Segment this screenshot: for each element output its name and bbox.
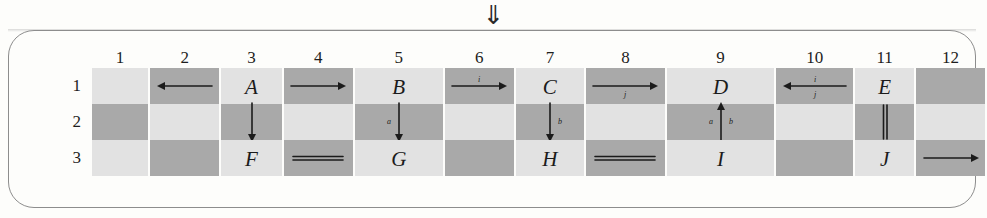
cell-letter: B xyxy=(392,77,405,98)
grid-cell-c6-r1: i xyxy=(445,68,514,104)
grid-body: 1ABiCjDijE2abab3FGHIJ xyxy=(64,68,985,176)
grid-cell-c5-r1: B xyxy=(355,68,443,104)
svg-text:i: i xyxy=(814,75,816,84)
svg-text:b: b xyxy=(729,117,733,126)
column-header-11: 11 xyxy=(855,46,914,68)
arrow-right-icon xyxy=(284,68,353,104)
arrow-right-icon: i xyxy=(445,68,514,104)
arrow-down-icon: a xyxy=(355,104,443,140)
cell-letter: J xyxy=(880,149,889,170)
grid-cell-c4-r1 xyxy=(284,68,353,104)
column-header-6: 6 xyxy=(445,46,514,68)
grid-cell-c8-r3 xyxy=(586,140,664,176)
double-line-horizontal-icon xyxy=(586,140,664,176)
cell-letter: C xyxy=(543,77,557,98)
grid-cell-c11-r3: J xyxy=(855,140,914,176)
svg-text:a: a xyxy=(709,117,713,126)
row-header-1: 1 xyxy=(64,68,90,104)
grid-cell-c12-r3 xyxy=(916,140,985,176)
grid-row-2: 2abab xyxy=(64,104,985,140)
grid-cell-c9-r3: I xyxy=(667,140,775,176)
grid-cell-c9-r2: ab xyxy=(667,104,775,140)
svg-text:j: j xyxy=(623,90,627,99)
column-header-2: 2 xyxy=(150,46,219,68)
grid-cell-c11-r1: E xyxy=(855,68,914,104)
grid-row-1: 1ABiCjDijE xyxy=(64,68,985,104)
grid-cell-c11-r2 xyxy=(855,104,914,140)
arrow-left-icon xyxy=(150,68,219,104)
grid-cell-c7-r3: H xyxy=(516,140,585,176)
grid-row-3: 3FGHIJ xyxy=(64,140,985,176)
grid-cell-c3-r1: A xyxy=(221,68,282,104)
grid-cell-c10-r1: ij xyxy=(776,68,853,104)
grid-cell-c7-r2: b xyxy=(516,104,585,140)
column-header-3: 3 xyxy=(221,46,282,68)
grid-cell-c3-r3: F xyxy=(221,140,282,176)
grid-cell-c10-r2 xyxy=(776,104,853,140)
grid-cell-c12-r1 xyxy=(916,68,985,104)
arrow-up-icon: ab xyxy=(667,104,775,140)
grid-corner xyxy=(64,46,90,68)
column-header-5: 5 xyxy=(355,46,443,68)
grid-cell-c8-r2 xyxy=(586,104,664,140)
arrow-right-icon xyxy=(916,140,985,176)
cell-letter: I xyxy=(717,149,724,170)
svg-text:b: b xyxy=(558,117,562,126)
grid-cell-c5-r2: a xyxy=(355,104,443,140)
grid-cell-c10-r3 xyxy=(776,140,853,176)
cell-letter: A xyxy=(245,77,258,98)
figure-root: ⇓ 123456789101112 1ABiCjDijE2abab3FGHIJ xyxy=(0,0,987,218)
cell-letter: G xyxy=(391,149,406,170)
column-header-8: 8 xyxy=(586,46,664,68)
arrow-down-icon: b xyxy=(516,104,585,140)
grid-cell-c2-r3 xyxy=(150,140,219,176)
grid-cell-c4-r2 xyxy=(284,104,353,140)
arrow-left-icon: ij xyxy=(776,68,853,104)
grid-cell-c1-r3 xyxy=(92,140,149,176)
row-header-2: 2 xyxy=(64,104,90,140)
double-down-arrow-icon: ⇓ xyxy=(0,0,987,32)
double-line-horizontal-icon xyxy=(284,140,353,176)
row-header-3: 3 xyxy=(64,140,90,176)
arrow-down-icon xyxy=(221,104,282,140)
grid-cell-c3-r2 xyxy=(221,104,282,140)
column-header-1: 1 xyxy=(92,46,149,68)
grid-cell-c2-r1 xyxy=(150,68,219,104)
column-header-10: 10 xyxy=(776,46,853,68)
column-header-7: 7 xyxy=(516,46,585,68)
diagram-grid: 123456789101112 1ABiCjDijE2abab3FGHIJ xyxy=(62,46,987,176)
svg-text:a: a xyxy=(387,117,391,126)
grid-cell-c2-r2 xyxy=(150,104,219,140)
cell-letter: E xyxy=(878,77,891,98)
svg-text:j: j xyxy=(813,90,817,99)
grid-cell-c1-r1 xyxy=(92,68,149,104)
cell-letter: H xyxy=(542,149,557,170)
grid-cell-c5-r3: G xyxy=(355,140,443,176)
grid-cell-c1-r2 xyxy=(92,104,149,140)
grid-cell-c6-r3 xyxy=(445,140,514,176)
grid-cell-c4-r3 xyxy=(284,140,353,176)
svg-text:i: i xyxy=(478,75,480,84)
column-header-9: 9 xyxy=(667,46,775,68)
double-line-vertical-icon xyxy=(855,104,914,140)
grid-cell-c9-r1: D xyxy=(667,68,775,104)
cell-letter: D xyxy=(713,77,728,98)
grid-cell-c8-r1: j xyxy=(586,68,664,104)
column-header-row: 123456789101112 xyxy=(64,46,985,68)
column-header-12: 12 xyxy=(916,46,985,68)
cell-letter: F xyxy=(245,149,258,170)
grid-container: 123456789101112 1ABiCjDijE2abab3FGHIJ xyxy=(62,46,987,176)
grid-cell-c6-r2 xyxy=(445,104,514,140)
grid-cell-c7-r1: C xyxy=(516,68,585,104)
column-header-4: 4 xyxy=(284,46,353,68)
grid-cell-c12-r2 xyxy=(916,104,985,140)
arrow-right-icon: j xyxy=(586,68,664,104)
